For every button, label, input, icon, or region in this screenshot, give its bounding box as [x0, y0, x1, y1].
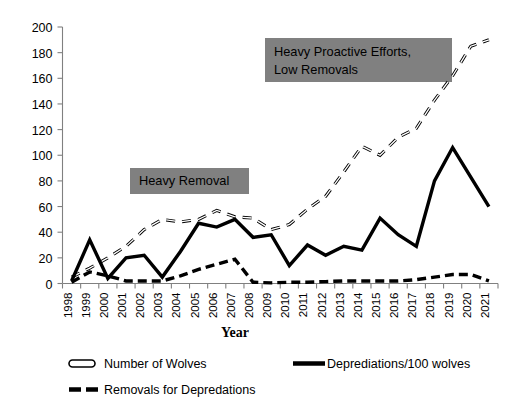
- y-tick-label: 60: [39, 201, 53, 215]
- x-tick-label: 2005: [189, 293, 201, 319]
- x-tick-label: 2021: [479, 293, 491, 319]
- y-tick-label: 100: [32, 149, 53, 163]
- x-tick-label: 2020: [461, 293, 473, 319]
- annotation-heavy-proactive-line1: Heavy Proactive Efforts,: [274, 44, 411, 59]
- annotation-heavy-removal: Heavy Removal: [130, 168, 249, 194]
- legend-label-number-of-wolves: Number of Wolves: [104, 357, 207, 371]
- x-tick-label: 2019: [443, 293, 455, 319]
- x-tick-label: 2004: [170, 292, 182, 318]
- y-tick-label: 120: [32, 124, 53, 138]
- x-tick-label: 1998: [62, 293, 74, 319]
- x-tick-label: 2015: [370, 293, 382, 319]
- x-tick-label: 2007: [225, 293, 237, 319]
- x-tick-label: 2006: [207, 293, 219, 319]
- x-tick-label: 2008: [243, 293, 255, 319]
- y-tick-label: 40: [39, 226, 53, 240]
- annotation-heavy-proactive: Heavy Proactive Efforts, Low Removals: [265, 38, 452, 82]
- x-tick-label: 2013: [334, 293, 346, 319]
- x-tick-label: 2012: [316, 293, 328, 319]
- x-tick-label: 2017: [406, 293, 418, 319]
- y-tick-label: 200: [32, 21, 53, 35]
- x-tick-label: 2001: [116, 293, 128, 319]
- annotation-heavy-proactive-line2: Low Removals: [274, 62, 358, 77]
- annotation-heavy-removal-label: Heavy Removal: [139, 173, 229, 188]
- chart-figure: 020406080100120140160180200 199819992000…: [0, 0, 528, 412]
- y-tick-label: 160: [32, 72, 53, 86]
- y-tick-label: 180: [32, 47, 53, 61]
- wolf-population-depredation-line-chart: 020406080100120140160180200 199819992000…: [0, 0, 528, 412]
- x-tick-label: 2009: [261, 293, 273, 319]
- x-tick-label: 2002: [134, 293, 146, 319]
- legend-label-depredations: Deprediations/100 wolves: [327, 357, 470, 371]
- x-tick-label: 2010: [279, 293, 291, 319]
- y-tick-label: 80: [39, 175, 53, 189]
- x-tick-label: 2016: [388, 293, 400, 319]
- legend-label-removals: Removals for Depredations: [104, 383, 255, 397]
- x-tick-label: 2018: [424, 293, 436, 319]
- x-tick-label: 2014: [352, 292, 364, 318]
- x-tick-label: 2000: [98, 293, 110, 319]
- y-tick-label: 140: [32, 98, 53, 112]
- x-tick-label: 2011: [297, 293, 309, 318]
- x-tick-label: 2003: [152, 293, 164, 319]
- y-tick-label: 0: [46, 278, 53, 292]
- x-tick-label: 1999: [80, 293, 92, 319]
- y-tick-label: 20: [39, 252, 53, 266]
- x-axis-title: Year: [221, 325, 249, 340]
- hollow-dash-swatch-icon: [69, 360, 95, 367]
